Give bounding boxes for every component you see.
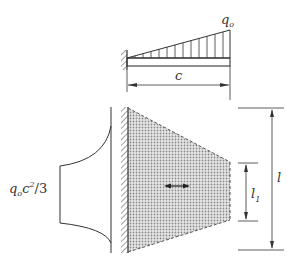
dim-l: l [238, 108, 284, 250]
moment-diagram: qoc2/3 [9, 107, 111, 253]
triangular-load [127, 30, 230, 58]
moment-label: qoc2/3 [9, 180, 47, 198]
beam [127, 58, 230, 66]
load-label: qo [221, 12, 234, 29]
plate-body [128, 108, 230, 252]
arrowhead-right [220, 83, 229, 87]
plate-wall-hatch [121, 107, 128, 253]
beam-wall-hatch [121, 50, 127, 70]
diagram-canvas: qo c l1 l [0, 0, 299, 271]
plate-group [121, 107, 230, 253]
arrowhead-left [128, 83, 137, 87]
moment-curve [60, 126, 111, 243]
beam-group: qo c [121, 12, 234, 100]
span-label: c [175, 68, 183, 83]
l-label: l [277, 170, 281, 185]
l1-label: l1 [251, 186, 260, 204]
dim-l1: l1 [238, 163, 260, 221]
